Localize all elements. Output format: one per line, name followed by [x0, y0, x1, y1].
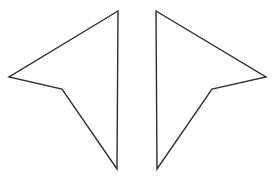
- figure-canvas: [0, 0, 276, 179]
- shapes-svg: [0, 0, 276, 179]
- right-dart-shape: [156, 11, 266, 169]
- left-dart-shape: [9, 11, 118, 169]
